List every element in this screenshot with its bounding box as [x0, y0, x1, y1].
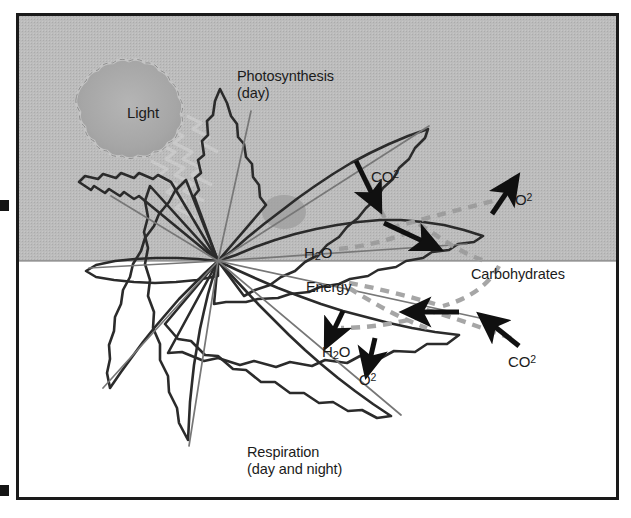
label-h2o-upper-o: O — [321, 244, 333, 261]
label-light: Light — [127, 104, 159, 122]
label-co2-lower-base: CO — [508, 353, 530, 370]
label-respiration-line1: Respiration — [247, 444, 319, 460]
label-h2o-upper: H2O — [304, 244, 332, 264]
label-photosynthesis-line2: (day) — [237, 85, 270, 101]
label-o2-upper: O2 — [515, 191, 532, 209]
page-edge-mark-lower — [0, 485, 9, 496]
label-o2-lower-sup: 2 — [371, 371, 377, 383]
label-o2-upper-base: O — [515, 191, 527, 208]
label-energy: Energy — [306, 279, 351, 296]
label-o2-upper-sup: 2 — [527, 191, 533, 203]
screenshot-page: Photosynthesis (day) Light CO2 O2 H2O Ca… — [0, 0, 631, 518]
page-edge-mark-upper — [0, 200, 9, 211]
label-carbohydrates: Carbohydrates — [471, 266, 565, 283]
label-photosynthesis: Photosynthesis (day) — [237, 68, 334, 102]
stem-shadow-blob — [262, 195, 306, 229]
label-co2-upper-sup: 2 — [393, 168, 399, 180]
label-o2-lower: O2 — [359, 371, 376, 389]
label-h2o-lower-h: H — [322, 343, 333, 360]
label-respiration-line2: (day and night) — [247, 461, 342, 477]
label-h2o-lower: H2O — [322, 343, 350, 363]
label-h2o-lower-o: O — [339, 343, 351, 360]
label-co2-lower: CO2 — [508, 353, 536, 371]
label-co2-lower-sup: 2 — [530, 353, 536, 365]
figure-frame: Photosynthesis (day) Light CO2 O2 H2O Ca… — [16, 13, 619, 500]
label-respiration: Respiration (day and night) — [247, 444, 342, 478]
label-photosynthesis-line1: Photosynthesis — [237, 68, 334, 84]
label-o2-lower-base: O — [359, 371, 371, 388]
label-h2o-upper-h: H — [304, 244, 315, 261]
label-co2-upper-base: CO — [371, 168, 393, 185]
label-co2-upper: CO2 — [371, 168, 399, 186]
